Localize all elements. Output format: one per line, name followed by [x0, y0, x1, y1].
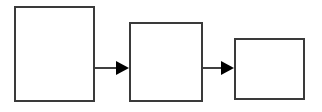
node-3[interactable] [235, 39, 304, 99]
node-group [15, 7, 304, 101]
connector-2[interactable] [203, 61, 234, 75]
node-box-3 [235, 39, 304, 99]
diagram-canvas [0, 0, 322, 112]
connector-1[interactable] [95, 61, 129, 75]
flowchart-diagram [0, 0, 322, 112]
node-box-1 [15, 7, 94, 101]
node-box-2 [130, 23, 202, 101]
arrowhead-icon-2 [221, 61, 234, 75]
arrowhead-icon-1 [116, 61, 129, 75]
node-1[interactable] [15, 7, 94, 101]
node-2[interactable] [130, 23, 202, 101]
